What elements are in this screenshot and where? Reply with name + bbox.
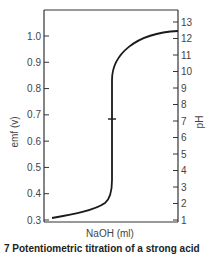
- right-tick-label: 5: [181, 149, 187, 160]
- figure-caption: 7 Potentiometric titration of a strong a…: [4, 243, 200, 255]
- left-tick-label: 0.8: [27, 83, 41, 94]
- y2-axis-title: pH: [194, 116, 205, 129]
- right-tick-label: 12: [181, 33, 193, 44]
- titration-curve: [52, 31, 178, 218]
- left-tick-label: 0.7: [27, 109, 41, 120]
- left-tick-label: 0.6: [27, 136, 41, 147]
- right-tick-label: 3: [181, 182, 187, 193]
- right-tick-label: 4: [181, 165, 187, 176]
- right-tick-label: 10: [181, 66, 193, 77]
- left-axis-ticks: [44, 36, 49, 220]
- left-tick-label: 0.3: [27, 215, 41, 226]
- left-tick-label: 0.4: [27, 188, 41, 199]
- right-axis-ticks: [173, 22, 178, 220]
- left-tick-label: 0.9: [27, 57, 41, 68]
- right-tick-label: 8: [181, 99, 187, 110]
- right-tick-label: 1: [181, 215, 187, 226]
- x-axis-title: NaOH (ml): [86, 228, 134, 239]
- right-tick-label: 6: [181, 132, 187, 143]
- right-tick-label: 9: [181, 83, 187, 94]
- right-tick-label: 7: [181, 116, 187, 127]
- right-tick-label: 13: [181, 17, 193, 28]
- left-axis-labels: 0.30.40.50.60.70.80.91.0: [27, 31, 41, 226]
- y-axis-title: emf (v): [9, 116, 20, 147]
- right-axis-labels: 12345678910111213: [181, 17, 193, 226]
- left-tick-label: 0.5: [27, 162, 41, 173]
- right-tick-label: 11: [181, 50, 192, 61]
- right-tick-label: 2: [181, 198, 187, 209]
- left-tick-label: 1.0: [27, 31, 41, 42]
